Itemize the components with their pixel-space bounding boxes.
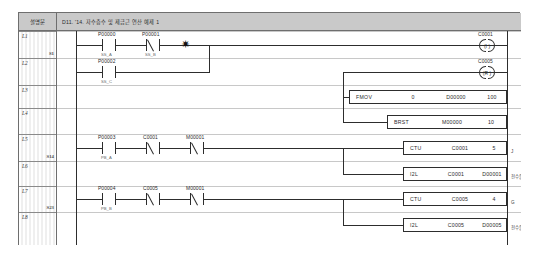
contact-tag-c0001: C0001 (143, 135, 158, 140)
step-marker-s23: S23 (47, 205, 54, 210)
coil-tag-c0005: C0005 (478, 59, 493, 64)
coil-c0005[interactable]: (R ) (477, 66, 497, 79)
contact-slash (191, 193, 198, 205)
row-separator (57, 108, 521, 109)
coil-glyph: (R ) (477, 66, 497, 79)
coil-tag-c0001: C0001 (478, 32, 493, 37)
contact-bar-left (102, 66, 103, 78)
ladder-canvas[interactable]: P00000 SS_A P00001 SS_B ✷ (I ) C0001 (57, 31, 521, 245)
row-separator (57, 134, 521, 135)
contact-bar-left (102, 193, 103, 205)
header-label-cell: 설명문 (19, 13, 57, 31)
contact-bar-left (102, 142, 103, 154)
wire-l7-c (164, 199, 186, 200)
block-ctu-c0005[interactable]: CTU C0005 4 (403, 192, 507, 206)
rung-label-l3[interactable]: L3 (22, 87, 28, 93)
row-separator (57, 58, 521, 59)
contact-c0001-nc[interactable] (142, 142, 164, 154)
block-fmov[interactable]: FMOV 0 D00000 100 (349, 90, 507, 104)
rung-label-l5[interactable]: L5 (22, 136, 28, 142)
block-name-ctu-2: CTU (410, 193, 422, 205)
row-separator (57, 186, 521, 187)
left-power-rail (76, 31, 77, 245)
gutter-divider (19, 58, 56, 59)
contact-tag-p00002: P00002 (98, 59, 115, 64)
block-name-fmov: FMOV (356, 91, 372, 103)
block-operand-1: C0001 (436, 168, 476, 180)
block-name-brst: BRST (394, 116, 409, 128)
block-feed-trunk-2 (343, 97, 344, 122)
contact-tag-m00001-b: M00001 (186, 186, 204, 191)
block-operand-2: D00005 (478, 219, 506, 231)
block-name-i2l-2: I2L (410, 219, 418, 231)
block-operand-1: 0 (396, 91, 430, 103)
contact-tag-c0005: C0005 (143, 186, 158, 191)
rung-label-l6[interactable]: L6 (22, 163, 28, 169)
block-i2l-c0005[interactable]: I2L C0005 D00005 (403, 218, 507, 232)
block-operand-2: D00001 (478, 168, 506, 180)
wire-l7-b (120, 199, 142, 200)
contact-slash (147, 193, 154, 205)
rung-label-l4[interactable]: L4 (22, 110, 28, 116)
gutter-divider (19, 134, 56, 135)
gutter-divider (19, 108, 56, 109)
wire-l2-b (120, 72, 210, 73)
block-ctu-c0001[interactable]: CTU C0001 5 (403, 141, 507, 155)
gutter-divider (19, 161, 56, 162)
contact-bar-left (102, 39, 103, 51)
step-marker-s14: S14 (47, 154, 54, 159)
block-operand-1: C0005 (440, 193, 480, 205)
block-operand-2: D00000 (436, 91, 476, 103)
branch-riser-l1-l2 (209, 45, 210, 72)
wire-l1-d (209, 45, 507, 46)
contact-p00001[interactable] (142, 39, 164, 51)
header-description-cell[interactable]: D11. '14. 자수층수 및 제금근 연산 예제 1 (57, 13, 521, 31)
block-operand-1: C0005 (436, 219, 476, 231)
contact-subtag-p00000: SS_A (101, 52, 112, 57)
block-i2l-c0001[interactable]: I2L C0001 D00001 (403, 167, 507, 181)
step-marker-s1: S1 (49, 51, 54, 56)
block-brst[interactable]: BRST M00000 10 (387, 115, 507, 129)
contact-p00002[interactable] (98, 66, 120, 78)
contact-subtag-p00002: SS_C (101, 79, 112, 84)
wire-l7-d (208, 199, 403, 200)
contact-p00000[interactable] (98, 39, 120, 51)
coil-c0001[interactable]: (I ) (477, 39, 497, 52)
block-operand-1: M00000 (430, 116, 474, 128)
wire-l6-a (343, 174, 403, 175)
block-operand-2: 4 (484, 193, 504, 205)
contact-tag-p00001: P00001 (142, 32, 159, 37)
header-label-text: 설명문 (30, 18, 46, 26)
wire-l5-d (208, 148, 403, 149)
gutter-divider (19, 186, 56, 187)
contact-slash (147, 39, 154, 51)
row-separator (57, 161, 521, 162)
contact-subtag-p00004: PB_B (101, 206, 112, 211)
rung-number-gutter: L1 L2 L3 L4 L5 L6 L7 L8 S1 S14 S23 (19, 31, 57, 245)
contact-tag-m00001-a: M00001 (186, 135, 204, 140)
contact-m00001-nc-a[interactable] (186, 142, 208, 154)
rung-label-l8[interactable]: L8 (22, 214, 28, 220)
annotation-i2l-2: 천수를 십수변환 (511, 224, 521, 230)
row-separator (57, 212, 521, 213)
cursor-marker-icon: ✷ (181, 39, 190, 50)
rung-label-l7[interactable]: L7 (22, 188, 28, 194)
annotation-i2l-1: 천수를 십수변환 (511, 173, 521, 179)
rung-label-l2[interactable]: L2 (22, 60, 28, 66)
block-operand-2: 10 (480, 116, 502, 128)
contact-m00001-nc-b[interactable] (186, 193, 208, 205)
contact-p00003[interactable] (98, 142, 120, 154)
coil-glyph: (I ) (477, 39, 497, 52)
gutter-divider (19, 85, 56, 86)
right-power-rail (507, 31, 508, 245)
rung-label-l1[interactable]: L1 (22, 33, 28, 39)
wire-l4-a (343, 122, 387, 123)
wire-l8-a (343, 225, 403, 226)
branch-number-g: G (511, 200, 515, 205)
gutter-divider (19, 31, 56, 32)
contact-c0005-nc[interactable] (142, 193, 164, 205)
wire-l1-a (76, 45, 98, 46)
block-feed-trunk-3 (343, 148, 344, 174)
contact-p00004[interactable] (98, 193, 120, 205)
wire-l1-b (120, 45, 142, 46)
